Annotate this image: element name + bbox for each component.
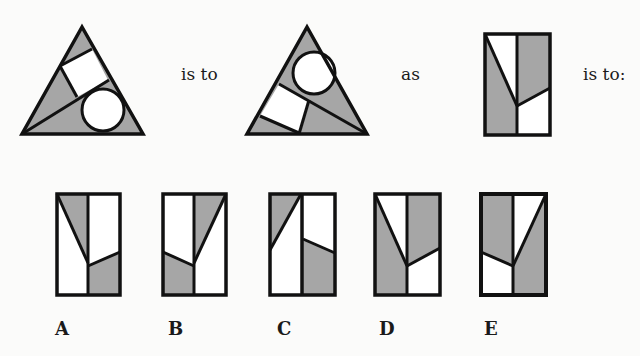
stem-figure-3 [480, 30, 560, 144]
option-e-figure[interactable] [476, 190, 552, 304]
option-e-label[interactable]: E [484, 318, 498, 339]
option-a-figure[interactable] [52, 190, 126, 304]
stem-figure-2 [210, 0, 380, 154]
stem-figure-1 [0, 0, 170, 154]
connector-is-to-2: is to: [583, 64, 625, 84]
option-c-label[interactable]: C [277, 318, 291, 339]
option-b-figure[interactable] [158, 190, 232, 304]
option-a-label[interactable]: A [55, 318, 69, 339]
option-d-figure[interactable] [370, 190, 446, 304]
connector-as: as [401, 64, 420, 84]
option-c-figure[interactable] [265, 190, 341, 304]
option-d-label[interactable]: D [379, 318, 395, 339]
option-b-label[interactable]: B [168, 318, 183, 339]
